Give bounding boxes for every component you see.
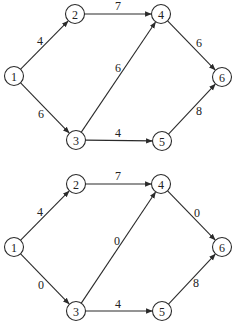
edge-weight-label: 0 [194, 206, 200, 220]
edge-5-6 [168, 254, 215, 304]
node-6: 6 [213, 68, 232, 87]
node-5: 5 [153, 132, 172, 151]
node-2: 2 [67, 175, 86, 194]
edge-weight-label: 7 [115, 169, 121, 183]
graph-top: 4676468123456 [5, 0, 232, 151]
node-1: 1 [5, 238, 24, 257]
graph-bottom: 4070408123456 [5, 169, 232, 321]
edge-1-3 [21, 254, 69, 304]
edge-5-6 [168, 84, 215, 134]
node-label: 6 [219, 241, 225, 255]
edge-4-6 [168, 191, 215, 240]
node-4: 4 [152, 175, 171, 194]
node-label: 5 [159, 305, 165, 319]
node-label: 1 [11, 70, 17, 84]
node-1: 1 [5, 67, 24, 86]
node-label: 2 [73, 178, 79, 192]
node-2: 2 [66, 5, 85, 24]
edge-weight-label: 4 [115, 126, 121, 140]
edge-weight-label: 4 [37, 34, 43, 48]
node-label: 5 [159, 135, 165, 149]
node-label: 4 [158, 178, 164, 192]
edge-weight-label: 4 [37, 205, 43, 219]
node-label: 1 [11, 241, 17, 255]
node-label: 3 [73, 305, 79, 319]
edge-weight-label: 7 [115, 0, 121, 13]
node-label: 3 [73, 134, 79, 148]
node-6: 6 [213, 238, 232, 257]
network-diagram: 46764681234564070408123456 [0, 0, 243, 324]
edge-weight-label: 4 [115, 297, 121, 311]
edge-3-5 [85, 140, 152, 141]
edge-weight-label: 6 [38, 107, 44, 121]
edge-weight-label: 6 [196, 36, 202, 50]
node-5: 5 [153, 302, 172, 321]
node-3: 3 [67, 131, 86, 150]
node-label: 4 [158, 8, 164, 22]
edge-weight-label: 6 [115, 61, 121, 75]
edge-1-2 [21, 21, 68, 69]
edge-4-6 [168, 21, 215, 70]
node-label: 6 [219, 71, 225, 85]
node-3: 3 [67, 302, 86, 321]
edge-weight-label: 8 [193, 276, 199, 290]
edge-weight-label: 0 [38, 278, 44, 292]
edge-1-2 [21, 191, 69, 240]
node-label: 2 [72, 8, 78, 22]
edge-1-3 [21, 83, 69, 133]
edge-3-4 [81, 22, 155, 132]
edge-weight-label: 0 [114, 234, 120, 248]
node-4: 4 [152, 5, 171, 24]
edge-weight-label: 8 [196, 104, 202, 118]
